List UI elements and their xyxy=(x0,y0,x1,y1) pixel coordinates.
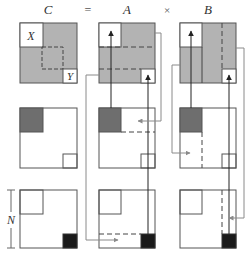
c-matrix-block-y xyxy=(20,190,77,248)
b-matrix-block-y xyxy=(180,190,236,248)
n-label: N xyxy=(6,213,16,227)
a-matrix-block-y xyxy=(99,190,155,248)
equals-sign: = xyxy=(85,3,92,17)
c-matrix-full: X Y xyxy=(20,23,77,83)
b-label: B xyxy=(204,2,212,17)
a-matrix-block-x xyxy=(99,108,155,168)
matrix-multiplication-diagram: C = A × B X Y xyxy=(0,0,250,261)
n-dimension-bracket: N xyxy=(6,190,16,248)
x-label: X xyxy=(26,29,35,43)
b-matrix-full xyxy=(180,23,236,83)
b-matrix-block-x xyxy=(180,108,236,168)
times-sign: × xyxy=(164,4,170,16)
c-matrix-block-x xyxy=(20,108,77,168)
c-label: C xyxy=(44,2,53,17)
a-matrix-full xyxy=(99,23,155,83)
a-label: A xyxy=(122,2,131,17)
